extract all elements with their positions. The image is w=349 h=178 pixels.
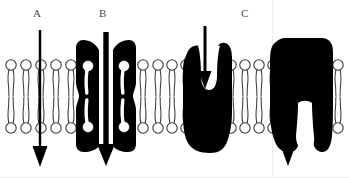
label-b: B [99,8,106,19]
carrier-protein-release [270,38,333,152]
channel-protein-arrow [97,32,115,166]
label-c: C [241,8,248,19]
carrier-protein-funnel [183,43,232,153]
label-a: A [33,8,41,19]
membrane-transport-figure: A B C [0,0,349,178]
membrane-diagram-canvas [0,0,349,178]
simple-diffusion-arrow [33,30,48,167]
